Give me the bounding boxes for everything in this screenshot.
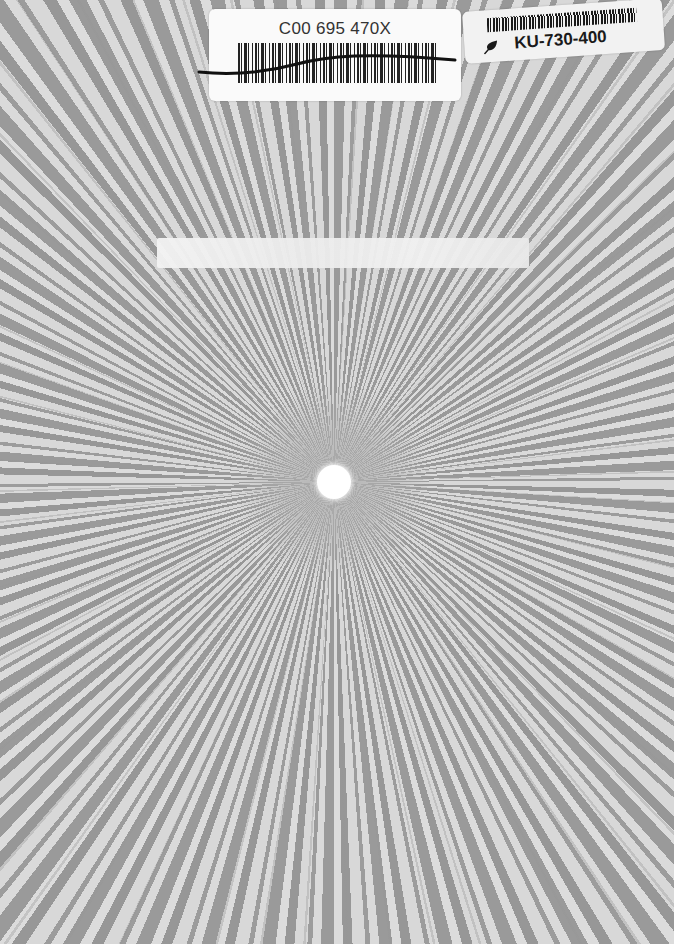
library-barcode-sticker: C00 695 470X: [209, 9, 461, 101]
shelf-code: KU-730-400: [514, 27, 608, 53]
shelf-code-sticker: KU-730-400: [462, 0, 665, 64]
barcode-number: C00 695 470X: [209, 19, 461, 39]
leaf-icon: [482, 40, 499, 55]
worn-label-strip: [157, 238, 529, 268]
marker-strike-line: [197, 42, 457, 82]
center-hole: [317, 465, 351, 499]
book-cover: C00 695 470X KU-730-400: [0, 0, 674, 944]
barcode-stripes: [486, 8, 637, 32]
